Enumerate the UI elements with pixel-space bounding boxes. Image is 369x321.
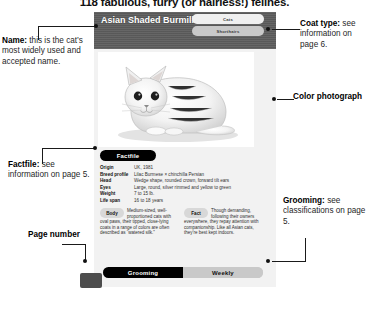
breed-card: Asian Shaded Burmilla Cats Shorthairs: [94, 12, 276, 287]
leader-line-grooming: [305, 238, 306, 262]
leader-line-coat-type: [272, 29, 300, 30]
factfile-value: UK, 1981: [134, 165, 153, 171]
leader-line-page-number: [62, 244, 86, 245]
tab-cats[interactable]: Cats: [192, 14, 264, 24]
factfile-value: 16 to 18 years: [134, 198, 163, 204]
leader-dot-grooming: [266, 259, 270, 263]
annotation-name-title: Name:: [2, 36, 27, 45]
grooming-nav: Grooming Weekly: [103, 267, 263, 278]
tab-shorthairs[interactable]: Shorthairs: [192, 26, 264, 36]
factfile-table: Origin UK, 1981 Breed profile Lilac Burm…: [100, 165, 268, 205]
page-headline: 118 fabulous, furry (or hairless!) felin…: [0, 0, 369, 8]
fact-pill: Fact: [184, 208, 208, 218]
photo-panel: [98, 52, 254, 147]
annotation-factfile-title: Factfile:: [8, 160, 39, 169]
leader-dot-name: [94, 24, 98, 28]
factfile-blurbs: Body Medium-sized, well-proportioned cat…: [100, 208, 270, 236]
annotation-page-number-title: Page number: [28, 230, 80, 239]
factfile-value: Wedge shape, rounded crown, forward tilt…: [134, 178, 229, 184]
body-blurb: Body Medium-sized, well-proportioned cat…: [100, 208, 178, 236]
leader-line-grooming: [272, 261, 306, 262]
annotation-coat-type: Coat type: see information on page 6.: [300, 19, 368, 50]
factfile-row: Life span 16 to 18 years: [100, 198, 268, 204]
factfile-row: Head Wedge shape, rounded crown, forward…: [100, 178, 268, 184]
leader-dot-page-number: [83, 259, 87, 263]
nav-weekly-button[interactable]: Weekly: [183, 267, 263, 278]
factfile-key: Weight: [100, 191, 134, 197]
fact-blurb: Fact Though demanding, following their o…: [184, 208, 262, 236]
annotation-page-number: Page number: [28, 230, 90, 240]
breed-name: Asian Shaded Burmilla: [101, 15, 206, 26]
leader-dot-color-photograph: [272, 97, 276, 101]
leader-line-factfile: [42, 148, 43, 164]
factfile-key: Life span: [100, 198, 134, 204]
factfile-value: Lilac Burmese × chinchilla Persian: [134, 172, 204, 178]
factfile-key: Eyes: [100, 185, 134, 191]
factfile-value: 7 to 15 lb.: [134, 191, 154, 197]
leader-line-factfile: [42, 148, 96, 149]
tab-cats-label: Cats: [223, 17, 233, 22]
factfile-tab[interactable]: Factfile: [100, 150, 156, 161]
annotation-grooming-title: Grooming:: [283, 196, 325, 205]
page-number-block: [80, 273, 102, 288]
factfile-title: Factfile: [117, 153, 140, 159]
body-pill: Body: [100, 208, 124, 218]
factfile-row: Breed profile Lilac Burmese × chinchilla…: [100, 172, 268, 178]
tab-shorthairs-label: Shorthairs: [217, 29, 240, 34]
factfile-row: Origin UK, 1981: [100, 165, 268, 171]
leader-line-name: [38, 26, 39, 40]
leader-line-name: [38, 26, 96, 27]
nav-weekly-label: Weekly: [212, 270, 234, 276]
category-tabs: Cats Shorthairs: [192, 14, 264, 38]
card-header: Asian Shaded Burmilla Cats Shorthairs: [94, 12, 276, 49]
annotation-grooming: Grooming: see classifications on page 5.: [283, 196, 367, 227]
factfile-key: Origin: [100, 165, 134, 171]
annotation-color-photograph-title: Color photograph: [293, 92, 362, 101]
leader-dot-factfile: [93, 146, 97, 150]
annotation-coat-type-title: Coat type:: [300, 19, 340, 28]
leader-line-color-photograph: [277, 99, 294, 100]
factfile-row: Weight 7 to 15 lb.: [100, 191, 268, 197]
factfile-value: Large, round, silver rimmed and yellow t…: [134, 185, 231, 191]
cat-photograph-icon: [98, 52, 254, 147]
factfile-row: Eyes Large, round, silver rimmed and yel…: [100, 185, 268, 191]
annotation-factfile: Factfile: see information on page 5.: [8, 160, 92, 181]
nav-grooming-label: Grooming: [128, 270, 158, 276]
annotation-color-photograph: Color photograph: [293, 92, 365, 102]
nav-grooming-button[interactable]: Grooming: [103, 267, 183, 278]
leader-dot-coat-type: [266, 27, 270, 31]
annotation-name: Name: this is the cat’s most widely used…: [2, 36, 90, 67]
factfile-key: Breed profile: [100, 172, 134, 178]
factfile-key: Head: [100, 178, 134, 184]
